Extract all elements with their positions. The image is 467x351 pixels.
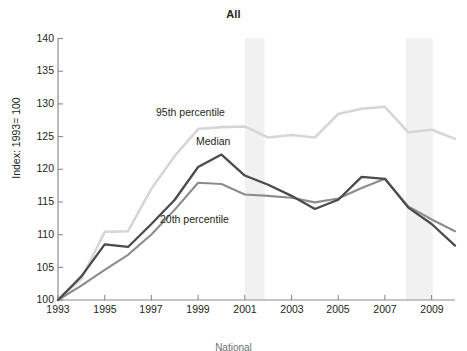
x-tick-label-2001: 2001 [225,303,265,315]
recession-band-2001 [245,38,265,300]
x-tick-label-1999: 1999 [178,303,218,315]
x-tick-label-2003: 2003 [272,303,312,315]
series-label-median: Median [196,135,230,147]
y-tick-label-115: 115 [26,195,54,207]
x-axis-ticks [58,295,432,300]
series-label-20th-percentile: 20th percentile [160,213,229,225]
y-axis-ticks [58,39,63,301]
y-tick-label-130: 130 [26,97,54,109]
shaded-bands [245,38,433,300]
y-tick-label-105: 105 [26,261,54,273]
y-tick-label-120: 120 [26,162,54,174]
x-tick-label-2005: 2005 [318,303,358,315]
y-tick-label-125: 125 [26,130,54,142]
y-tick-label-135: 135 [26,64,54,76]
y-tick-label-110: 110 [26,228,54,240]
x-tick-label-1993: 1993 [38,303,78,315]
x-tick-label-2007: 2007 [365,303,405,315]
recession-band-2008 [406,38,433,300]
x-tick-label-1995: 1995 [85,303,125,315]
y-tick-label-140: 140 [26,32,54,44]
series-label-95th-percentile: 95th percentile [156,106,225,118]
chart-footnote: National [0,342,467,351]
x-tick-label-2009: 2009 [412,303,452,315]
x-tick-label-1997: 1997 [131,303,171,315]
